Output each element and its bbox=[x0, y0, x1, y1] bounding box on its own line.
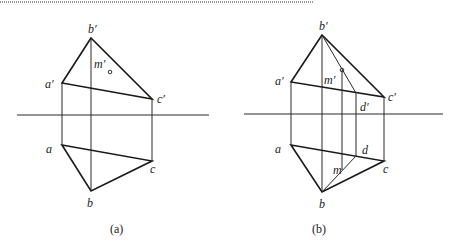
label-a: a bbox=[46, 142, 52, 156]
caption-b: (b) bbox=[312, 222, 326, 236]
projection-diagram: b′ m′ a′ c′ a c b (a) b′ m′ a′ c′ d′ a d bbox=[0, 0, 455, 250]
label-m-prime: m′ bbox=[94, 57, 106, 71]
label-b: b bbox=[319, 197, 325, 211]
label-b-prime: b′ bbox=[88, 22, 97, 36]
front-view-triangle-b bbox=[291, 35, 384, 97]
figure-b: b′ m′ a′ c′ d′ a d m c b (b) bbox=[244, 19, 443, 236]
label-a-prime: a′ bbox=[45, 77, 54, 91]
label-c-prime: c′ bbox=[157, 92, 165, 106]
label-d: d bbox=[362, 143, 369, 157]
point-m-prime-marker bbox=[108, 70, 112, 74]
label-c: c bbox=[383, 162, 389, 176]
top-view-triangle-a bbox=[62, 145, 152, 191]
label-b: b bbox=[87, 196, 93, 210]
label-d-prime: d′ bbox=[360, 100, 369, 114]
front-view-triangle-a bbox=[62, 38, 152, 99]
label-m: m bbox=[333, 163, 342, 177]
label-c: c bbox=[150, 162, 156, 176]
label-a: a bbox=[275, 142, 281, 156]
label-b-prime: b′ bbox=[319, 19, 328, 33]
caption-a: (a) bbox=[110, 222, 123, 236]
label-c-prime: c′ bbox=[388, 90, 396, 104]
label-m-prime: m′ bbox=[324, 73, 336, 87]
label-a-prime: a′ bbox=[275, 74, 284, 88]
figure-a: b′ m′ a′ c′ a c b (a) bbox=[17, 22, 209, 236]
